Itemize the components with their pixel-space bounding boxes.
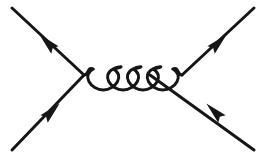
fermion-line-lower-right bbox=[150, 75, 254, 150]
arrowhead-lower-right bbox=[206, 103, 225, 122]
arrowhead-lower-left bbox=[40, 103, 59, 122]
feynman-diagram-svg bbox=[0, 0, 266, 159]
feynman-diagram-canvas bbox=[0, 0, 266, 159]
